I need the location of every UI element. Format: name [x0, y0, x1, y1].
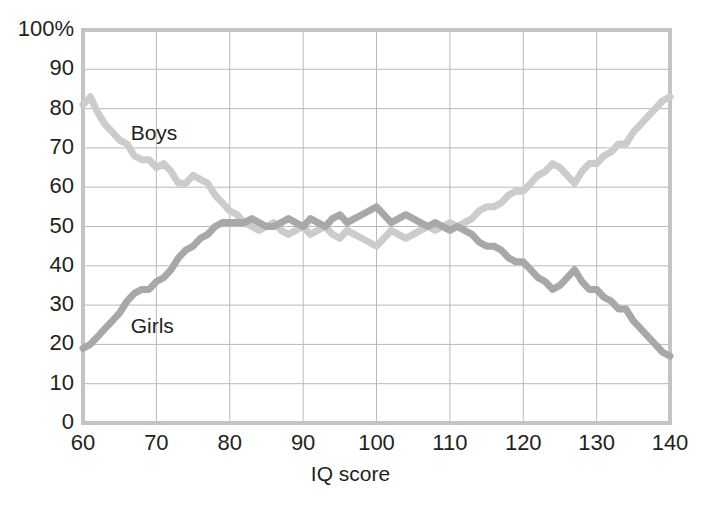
x-tick-label: 60 [43, 432, 123, 454]
x-tick-label: 70 [116, 432, 196, 454]
x-tick-label: 80 [190, 432, 270, 454]
y-tick-label: 40 [50, 254, 74, 276]
x-tick-label: 140 [630, 432, 701, 454]
y-tick-label: 30 [50, 293, 74, 315]
x-tick-label: 110 [410, 432, 490, 454]
y-tick-label: 20 [50, 332, 74, 354]
y-tick-label: 70 [50, 136, 74, 158]
x-tick-label: 90 [263, 432, 343, 454]
gridlines [83, 30, 670, 423]
y-tick-label: 80 [50, 97, 74, 119]
series-label-boys: Boys [131, 121, 178, 145]
series-label-girls: Girls [131, 314, 174, 338]
x-axis-title: IQ score [0, 462, 701, 486]
x-tick-label: 120 [483, 432, 563, 454]
y-tick-label: 10 [50, 372, 74, 394]
chart-container: 0102030405060708090100% 6070809010011012… [0, 0, 701, 507]
y-tick-label: 60 [50, 175, 74, 197]
y-tick-label: 90 [50, 57, 74, 79]
x-tick-label: 100 [337, 432, 417, 454]
x-tick-label: 130 [557, 432, 637, 454]
y-tick-label: 100% [18, 18, 74, 40]
y-tick-label: 50 [50, 215, 74, 237]
